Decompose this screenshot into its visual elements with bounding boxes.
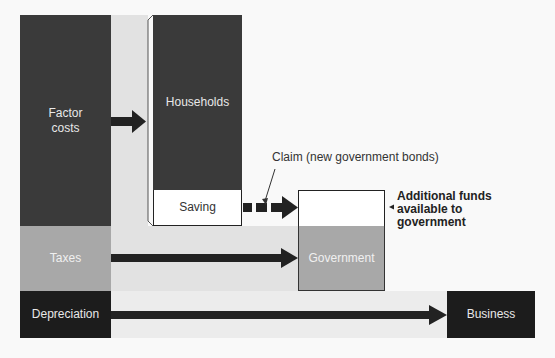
claim-pointer [262,169,275,205]
arrow-factor-to-households [111,110,146,133]
flow-arrows [0,0,555,358]
additional-funds-label: Additional funds available to government [397,190,492,229]
funds-pointer [389,205,394,210]
claim-annotation: Claim (new government bonds) [272,150,439,164]
arrow-depreciation-to-business [111,305,447,325]
arrow-taxes-to-government [111,248,298,268]
arrow-saving-to-funds [243,196,298,219]
